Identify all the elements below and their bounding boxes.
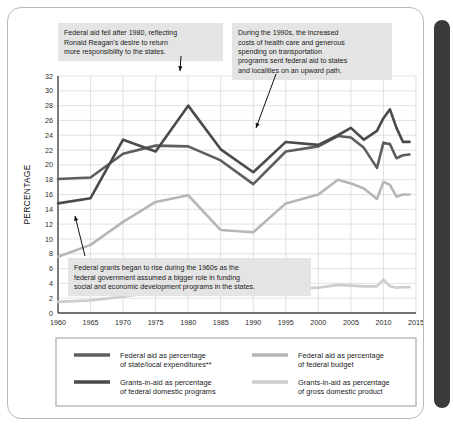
x-axis-tick-label: 1985 [213, 318, 229, 327]
annotation-reagan: Federal aid fell after 1980, reflectingR… [58, 23, 223, 71]
y-axis-tick-label: 24 [45, 131, 53, 140]
y-axis-tick-label: 6 [49, 264, 53, 273]
callout-line: Ronald Reagan's desire to return [64, 39, 168, 47]
x-axis-tick-label: 1980 [180, 318, 196, 327]
line-chart: 0246810121416182022242628303219601965197… [8, 8, 423, 418]
chart-card: 0246810121416182022242628303219601965197… [7, 7, 424, 419]
legend-label-line1: Federal aid as percentage [298, 351, 384, 360]
y-axis-tick-label: 28 [45, 101, 53, 110]
x-axis-tick-label: 1970 [115, 318, 131, 327]
chart-canvas: 0246810121416182022242628303219601965197… [8, 8, 423, 418]
callout-line: During the 1990s, the increased [238, 29, 339, 37]
legend-label-line1: Federal aid as percentage [120, 351, 206, 360]
callout-line: Federal aid fell after 1980, reflecting [64, 29, 177, 37]
legend-label-line1: Grants-in-aid as percentage [298, 378, 390, 387]
callout-line: more responsibility to the states. [64, 48, 166, 56]
y-axis-tick-label: 0 [49, 309, 53, 318]
scrollbar-thumb[interactable] [434, 20, 450, 408]
y-axis-tick-label: 26 [45, 116, 53, 125]
legend-label-line2: of gross domestic product [298, 387, 383, 396]
y-axis-tick-label: 10 [45, 235, 53, 244]
x-axis-tick-label: 2005 [343, 318, 359, 327]
y-axis-tick-label: 8 [49, 249, 53, 258]
legend-label-line2: of federal budget [298, 360, 353, 369]
y-axis-tick-label: 16 [45, 190, 53, 199]
legend-label-line1: Grants-in-aid as percentage [120, 378, 212, 387]
legend-label-line2: of federal domestic programs [120, 387, 216, 396]
y-axis-tick-label: 12 [45, 220, 53, 229]
y-axis-tick-label: 20 [45, 160, 53, 169]
x-axis-tick-label: 2015 [408, 318, 423, 327]
callout-line: spending on transportation [238, 48, 322, 56]
y-axis-tick-label: 14 [45, 205, 53, 214]
legend-label-line2: of state/local expenditures** [120, 360, 212, 369]
x-axis-tick-label: 1965 [83, 318, 99, 327]
callout-line: programs sent federal aid to states [238, 57, 348, 65]
callout-line: social and economic development programs… [74, 283, 255, 291]
x-axis-tick-label: 1995 [278, 318, 294, 327]
x-axis-tick-label: 1960 [50, 318, 66, 327]
y-axis-tick-label: 30 [45, 86, 53, 95]
callout-arrow-head [178, 66, 182, 71]
x-axis-tick-label: 2010 [375, 318, 391, 327]
callout-line: costs of health care and generous [238, 39, 345, 47]
x-axis-tick-label: 1975 [148, 318, 164, 327]
y-axis-title: PERCENTAGE [22, 164, 32, 224]
callout-line: Federal grants began to rise during the … [74, 264, 239, 272]
y-axis-tick-label: 4 [49, 279, 53, 288]
y-axis-tick-label: 18 [45, 175, 53, 184]
y-axis-tick-label: 22 [45, 146, 53, 155]
callout-line: federal government assumed a bigger role… [74, 274, 240, 282]
x-axis-tick-label: 1990 [245, 318, 261, 327]
x-axis-tick-label: 2000 [310, 318, 326, 327]
y-axis-tick-label: 2 [49, 294, 53, 303]
y-axis-tick-label: 32 [45, 72, 53, 81]
callout-line: and localities on an upward path. [238, 67, 342, 75]
